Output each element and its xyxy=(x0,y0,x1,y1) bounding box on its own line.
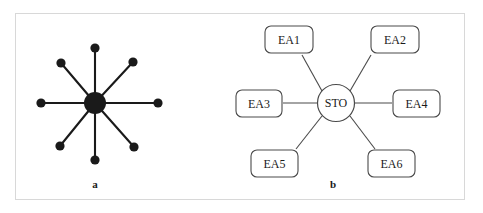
figure-container: STO EA1 EA2 EA3 EA4 EA5 EA6 a b xyxy=(0,0,483,213)
panel-b-hub-spoke-diagram xyxy=(236,26,440,177)
node-e xyxy=(153,98,162,107)
hub-circle-sto xyxy=(318,85,355,122)
node-box-ea4 xyxy=(393,90,440,117)
diagram-canvas xyxy=(0,0,483,213)
node-box-ea6 xyxy=(368,150,415,177)
panel-a-caption: a xyxy=(75,178,115,190)
node-ne xyxy=(128,57,137,66)
node-n xyxy=(90,43,99,52)
node-box-ea5 xyxy=(251,150,298,177)
edge-sto-ea2 xyxy=(350,55,371,91)
panel-a-star-diagram xyxy=(36,43,162,164)
node-se xyxy=(129,142,138,151)
node-nw xyxy=(56,58,65,67)
node-s xyxy=(90,155,99,164)
edge-sto-ea6 xyxy=(350,116,375,149)
edge-sto-ea1 xyxy=(302,55,322,91)
node-w xyxy=(36,98,45,107)
panel-b-caption: b xyxy=(313,178,353,190)
node-box-ea2 xyxy=(371,26,419,53)
node-sw xyxy=(55,141,64,150)
node-box-ea3 xyxy=(236,90,282,117)
node-box-ea1 xyxy=(265,26,313,53)
panel-a-hub-node xyxy=(84,92,106,114)
edge-sto-ea5 xyxy=(296,116,322,149)
